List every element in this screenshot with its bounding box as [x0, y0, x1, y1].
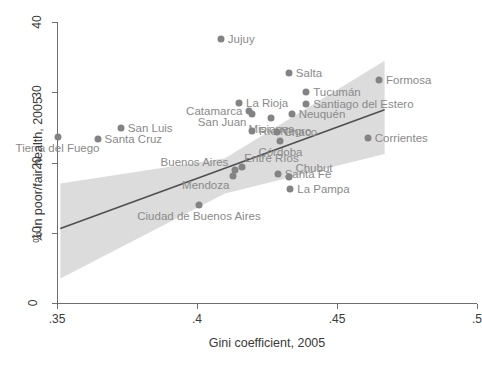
data-point	[376, 77, 383, 84]
data-point	[274, 171, 281, 178]
data-point	[249, 111, 256, 118]
data-point	[248, 127, 255, 134]
y-axis-title: % in poor/fair health, 2005	[31, 70, 45, 270]
data-point	[303, 101, 310, 108]
point-label: Tierra del Fuego	[16, 142, 100, 154]
data-point	[230, 172, 237, 179]
data-point	[239, 164, 246, 171]
point-label: Neuquén	[299, 108, 346, 120]
point-label: Salta	[296, 67, 322, 79]
data-point	[288, 111, 295, 118]
point-label: San Luis	[128, 122, 173, 134]
point-label: La Rioja	[246, 97, 288, 109]
data-point	[195, 201, 202, 208]
data-point	[277, 138, 284, 145]
x-axis-title: Gini coefficient, 2005	[209, 336, 326, 350]
point-label: Buenos Aires	[161, 156, 229, 168]
point-label: Corrientes	[375, 132, 428, 144]
point-label: La Pampa	[297, 183, 349, 195]
x-tick	[477, 304, 478, 309]
data-point	[217, 35, 224, 42]
point-label: Santa Cruz	[105, 133, 163, 145]
data-point	[117, 125, 124, 132]
point-label: San Juan	[198, 116, 247, 128]
point-label: Chaco	[284, 126, 317, 138]
data-point	[94, 136, 101, 143]
data-point	[54, 133, 61, 140]
point-label: Formosa	[386, 74, 431, 86]
point-label: Mendoza	[182, 179, 229, 191]
point-label: Tucumán	[313, 86, 361, 98]
data-point	[303, 88, 310, 95]
data-point	[268, 114, 275, 121]
data-point	[286, 173, 293, 180]
point-label: Jujuy	[228, 33, 255, 45]
data-point	[273, 129, 280, 136]
data-point	[364, 134, 371, 141]
point-label: Entre Ríos	[244, 152, 298, 164]
data-point	[285, 70, 292, 77]
data-point	[287, 186, 294, 193]
point-label: Chubut	[295, 162, 332, 174]
point-label: Ciudad de Buenos Aires	[137, 210, 260, 222]
